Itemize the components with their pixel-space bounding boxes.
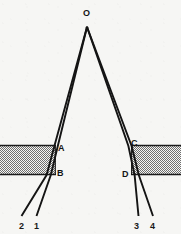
label-point-o: O xyxy=(83,9,90,18)
label-point-a: A xyxy=(58,144,65,153)
apex-vertex-marker xyxy=(86,26,89,29)
optics-refraction-figure: O A B C D 2 1 3 4 xyxy=(0,0,181,234)
ray-path-2-left-outer xyxy=(22,27,88,216)
label-ray-3: 3 xyxy=(134,222,139,231)
figure-canvas xyxy=(0,0,181,234)
label-ray-4: 4 xyxy=(150,222,155,231)
label-ray-1: 1 xyxy=(34,222,39,231)
label-point-c: C xyxy=(131,139,138,148)
label-point-d: D xyxy=(122,170,129,179)
label-ray-2: 2 xyxy=(19,222,24,231)
label-point-b: B xyxy=(57,169,64,178)
ray-path-3-right-inner xyxy=(87,27,139,216)
